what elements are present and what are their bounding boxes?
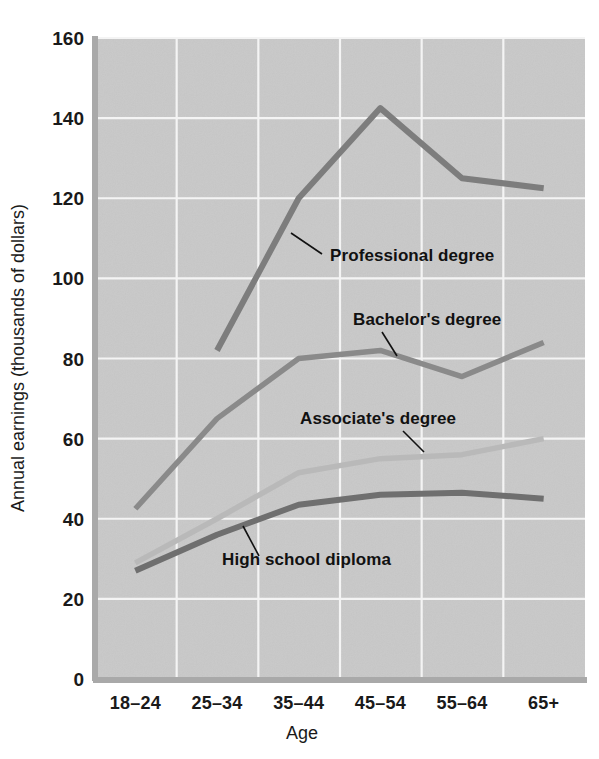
y-tick-label: 0 [73, 669, 84, 690]
y-tick-label: 80 [63, 349, 84, 370]
y-tick-label: 120 [52, 188, 84, 209]
y-tick-label: 140 [52, 108, 84, 129]
y-tick-label: 160 [52, 28, 84, 49]
series-annotation-label: Bachelor's degree [353, 310, 501, 329]
y-tick-label: 100 [52, 268, 84, 289]
y-tick-label: 40 [63, 509, 84, 530]
series-annotation-label: High school diploma [222, 550, 392, 569]
x-tick-label: 35–44 [273, 693, 324, 713]
y-tick-label: 60 [63, 429, 84, 450]
series-annotation-label: Associate's degree [300, 409, 456, 428]
x-tick-label: 65+ [528, 693, 559, 713]
y-axis-title: Annual earnings (thousands of dollars) [8, 204, 28, 512]
chart-figure: 020406080100120140160 18–2425–3435–4445–… [0, 0, 599, 759]
series-annotation-label: Professional degree [330, 246, 494, 265]
x-tick-label: 45–54 [355, 693, 406, 713]
line-chart: 020406080100120140160 18–2425–3435–4445–… [0, 0, 599, 759]
x-tick-label: 18–24 [110, 693, 161, 713]
y-tick-labels: 020406080100120140160 [52, 28, 84, 690]
x-tick-label: 55–64 [436, 693, 487, 713]
y-tick-label: 20 [63, 589, 84, 610]
x-tick-label: 25–34 [191, 693, 242, 713]
x-axis-title: Age [286, 723, 318, 743]
x-tick-labels: 18–2425–3435–4445–5455–6465+ [110, 693, 559, 713]
